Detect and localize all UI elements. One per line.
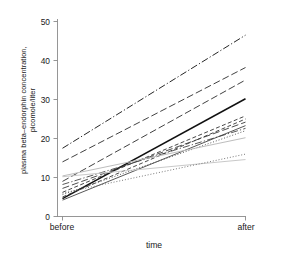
y-tick-label-40: 40 — [41, 56, 51, 66]
series-line-subject-7 — [63, 122, 246, 188]
series-line-subject-1 — [63, 35, 246, 148]
series-lines-group — [63, 35, 246, 200]
y-axis-tick-labels: 0 10 20 30 40 50 — [41, 17, 51, 222]
x-tick-label-before: before — [50, 222, 75, 232]
series-line-subject-8 — [63, 126, 246, 200]
y-tick-label-20: 20 — [41, 134, 51, 144]
x-axis-ticks — [63, 217, 246, 221]
x-axis-title: time — [146, 240, 162, 250]
series-line-subject-13 — [63, 154, 246, 193]
series-line-subject-11 — [63, 138, 246, 176]
y-tick-label-50: 50 — [41, 17, 51, 27]
y-tick-label-10: 10 — [41, 173, 51, 183]
x-axis-tick-labels: before after — [50, 222, 255, 232]
series-line-subject-12 — [63, 160, 246, 177]
y-tick-label-30: 30 — [41, 95, 51, 105]
series-line-subject-2 — [63, 68, 246, 162]
y-axis-ticks — [54, 22, 58, 217]
chart-figure: plasma beta–endorphin concentration, pic… — [0, 0, 281, 263]
series-line-subject-4 — [63, 99, 246, 199]
chart-plot-area: 0 10 20 30 40 50 before after time — [0, 0, 281, 263]
y-tick-label-0: 0 — [45, 212, 50, 222]
series-line-subject-5 — [63, 116, 246, 192]
x-tick-label-after: after — [237, 222, 254, 232]
